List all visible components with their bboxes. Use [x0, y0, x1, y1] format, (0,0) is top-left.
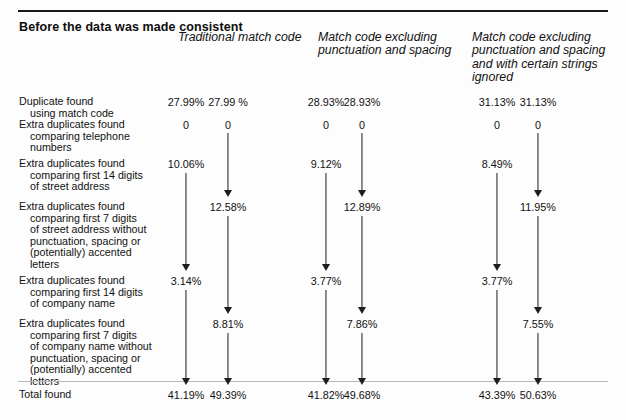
- value-g0a-r5: 3.14%: [171, 275, 202, 287]
- value-g1a-r2: 0: [323, 119, 329, 131]
- value-g0a-r2: 0: [183, 119, 189, 131]
- row-label-4-line-5: letters: [19, 259, 169, 271]
- row-label-7: Total found: [19, 389, 169, 401]
- arrow-g0b-r6-to-r7: [222, 333, 234, 385]
- arrow-g1a-r3-to-r5: [320, 173, 332, 271]
- arrow-g1b-r2-to-r4: [356, 133, 368, 197]
- value-g0b-r4: 12.58%: [210, 201, 247, 213]
- value-g1a-r5: 3.77%: [311, 275, 342, 287]
- value-g0a-r3: 10.06%: [168, 158, 205, 170]
- value-g2b-r2: 0: [535, 119, 541, 131]
- total-separator-rule: [18, 381, 608, 382]
- value-g2a-r7: 43.39%: [479, 389, 516, 401]
- row-label-7-line-0: Total found: [19, 389, 169, 401]
- column-group-header-2-text: Match code excluding punctuation and spa…: [472, 30, 605, 84]
- value-g1a-r1: 28.93%: [308, 96, 345, 108]
- value-g1a-r7: 41.82%: [308, 389, 345, 401]
- row-label-4-line-0: Extra duplicates found: [19, 201, 169, 213]
- value-g1b-r1: 28.93%: [344, 96, 381, 108]
- row-label-1-line-0: Duplicate found: [19, 96, 169, 108]
- column-group-header-1: Match code excluding punctuation and spa…: [318, 31, 470, 58]
- column-group-header-0-text: Traditional match code: [178, 30, 302, 44]
- arrow-g2a-r5-to-r7: [491, 290, 503, 385]
- row-label-5-line-2: of company name: [19, 298, 169, 310]
- arrow-g2b-r2-to-r4: [532, 133, 544, 197]
- row-label-5: Extra duplicates found comparing first 1…: [19, 275, 169, 310]
- value-g2a-r2: 0: [494, 119, 500, 131]
- value-g2b-r6: 7.55%: [523, 318, 554, 330]
- row-label-3-line-2: of street address: [19, 181, 169, 193]
- arrow-g1b-r4-to-r6: [356, 216, 368, 314]
- value-g2b-r1: 31.13%: [520, 96, 557, 108]
- column-group-header-0: Traditional match code: [178, 31, 328, 44]
- value-g0b-r1: 27.99 %: [208, 96, 248, 108]
- value-g0b-r6: 8.81%: [213, 318, 244, 330]
- arrow-g2b-r4-to-r6: [532, 216, 544, 314]
- arrow-g0b-r2-to-r4: [222, 133, 234, 197]
- row-label-3-line-0: Extra duplicates found: [19, 158, 169, 170]
- top-horizontal-rule: [18, 10, 608, 12]
- value-g2a-r3: 8.49%: [482, 158, 513, 170]
- column-group-header-1-text: Match code excluding punctuation and spa…: [318, 30, 451, 57]
- arrow-g0a-r5-to-r7: [180, 290, 192, 385]
- arrow-g1a-r5-to-r7: [320, 290, 332, 385]
- value-g0a-r7: 41.19%: [168, 389, 205, 401]
- row-label-2-line-2: numbers: [19, 142, 169, 154]
- value-g1b-r6: 7.86%: [347, 318, 378, 330]
- value-g2b-r4: 11.95%: [520, 201, 556, 213]
- arrow-g1b-r6-to-r7: [356, 333, 368, 385]
- value-g1b-r7: 49.68%: [344, 389, 381, 401]
- row-label-1: Duplicate found using match code: [19, 96, 169, 119]
- value-g2a-r1: 31.13%: [479, 96, 516, 108]
- row-label-6: Extra duplicates found comparing first 7…: [19, 318, 169, 388]
- value-g0a-r1: 27.99%: [168, 96, 205, 108]
- document-page: Before the data was made consistent Trad…: [0, 0, 626, 420]
- row-label-6-line-0: Extra duplicates found: [19, 318, 169, 330]
- arrow-g0a-r3-to-r5: [180, 173, 192, 271]
- value-g1a-r3: 9.12%: [311, 158, 342, 170]
- value-g0b-r7: 49.39%: [210, 389, 247, 401]
- value-g2b-r7: 50.63%: [520, 389, 557, 401]
- value-g1b-r2: 0: [359, 119, 365, 131]
- arrow-g0b-r4-to-r6: [222, 216, 234, 314]
- row-label-3: Extra duplicates found comparing first 1…: [19, 158, 169, 193]
- row-label-2-line-0: Extra duplicates found: [19, 119, 169, 131]
- arrow-g2a-r3-to-r5: [491, 173, 503, 271]
- arrow-g2b-r6-to-r7: [532, 333, 544, 385]
- column-group-header-2: Match code excluding punctuation and spa…: [472, 31, 622, 85]
- value-g1b-r4: 12.89%: [344, 201, 381, 213]
- row-label-2: Extra duplicates found comparing telepho…: [19, 119, 169, 154]
- value-g0b-r2: 0: [225, 119, 231, 131]
- row-label-5-line-0: Extra duplicates found: [19, 275, 169, 287]
- row-label-4: Extra duplicates found comparing first 7…: [19, 201, 169, 271]
- value-g2a-r5: 3.77%: [482, 275, 513, 287]
